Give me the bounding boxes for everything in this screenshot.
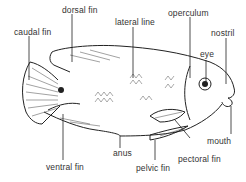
label-mouth: mouth xyxy=(207,136,231,146)
fish-anatomy-diagram: dorsal fin caudal fin lateral line operc… xyxy=(0,0,246,182)
label-ventral-fin: ventral fin xyxy=(46,162,84,172)
label-anus: anus xyxy=(113,148,132,158)
label-eye: eye xyxy=(200,49,214,59)
label-pelvic-fin: pelvic fin xyxy=(136,163,170,173)
label-lateral-line: lateral line xyxy=(115,17,155,27)
label-operculum: operculum xyxy=(168,8,209,18)
label-caudal-fin: caudal fin xyxy=(14,27,51,37)
dorsal-outline xyxy=(52,45,210,62)
label-nostril: nostril xyxy=(211,28,234,38)
label-dorsal-fin: dorsal fin xyxy=(62,5,98,15)
label-pectoral-fin: pectoral fin xyxy=(178,154,221,164)
